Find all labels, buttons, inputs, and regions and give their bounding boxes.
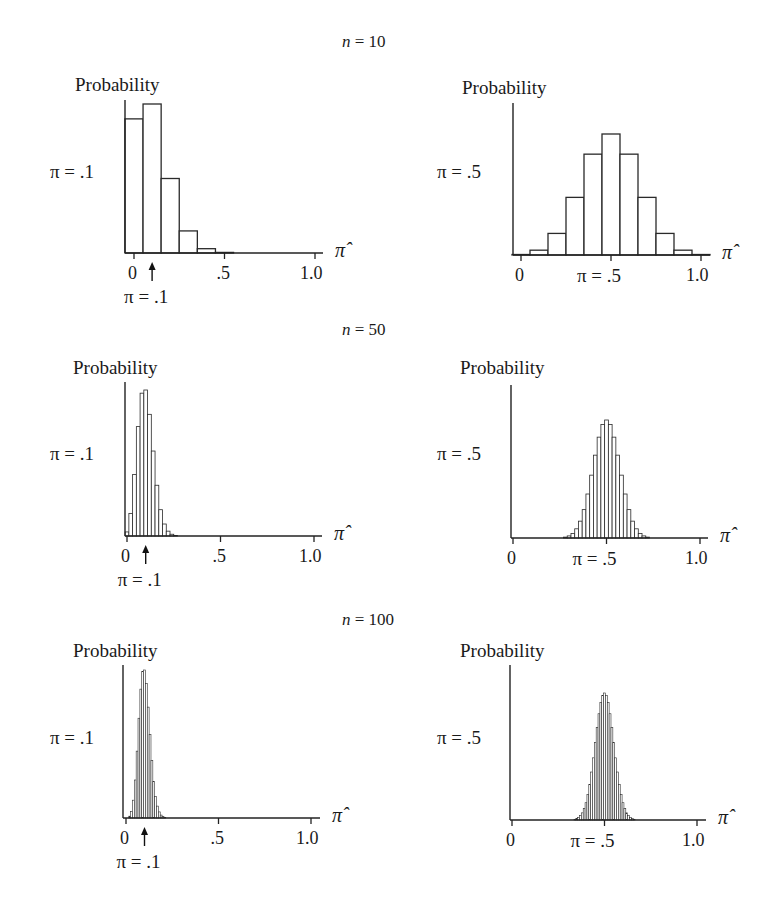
histogram-bar — [586, 494, 590, 538]
histogram-bar — [143, 104, 161, 253]
histogram-bar — [612, 437, 616, 538]
histogram-bar — [163, 524, 167, 536]
histogram-bar — [631, 521, 635, 538]
histogram-bar — [148, 414, 152, 536]
histogram-bar — [575, 529, 579, 538]
histogram-bar — [136, 427, 140, 536]
histogram-bar — [133, 474, 137, 536]
histogram-bar — [593, 455, 597, 538]
histogram-bar — [620, 475, 624, 538]
histogram-bar — [605, 420, 609, 538]
histogram-bar — [548, 233, 566, 255]
histogram-bar — [582, 510, 586, 538]
histogram-bar — [616, 455, 620, 538]
arrow-head-icon — [142, 545, 149, 553]
arrow-head-icon — [141, 827, 148, 835]
arrow-head-icon — [149, 262, 156, 270]
histogram-bar — [623, 494, 627, 538]
histogram-bar — [620, 154, 638, 255]
histogram-bar — [161, 179, 179, 254]
histogram-bar — [601, 425, 605, 538]
histogram-bar — [590, 475, 594, 538]
histogram-bar — [638, 197, 656, 255]
histogram-bar — [151, 451, 155, 536]
histogram-bar — [144, 390, 148, 536]
histogram-bar — [608, 425, 612, 538]
histogram-bar — [155, 485, 159, 536]
histogram-bar — [656, 233, 674, 255]
histogram-bar — [584, 154, 602, 255]
histogram-bar — [602, 134, 620, 255]
histogram-bar — [159, 510, 163, 536]
histogram-bar — [125, 119, 143, 253]
histogram-bar — [140, 393, 144, 536]
histogram-bar — [578, 521, 582, 538]
histogram-bar — [627, 510, 631, 538]
histograms — [0, 0, 770, 916]
histogram-bar — [597, 437, 601, 538]
histogram-bar — [179, 231, 197, 253]
histogram-bar — [635, 529, 639, 538]
histogram-bar — [566, 197, 584, 255]
histogram-bar — [129, 513, 133, 536]
